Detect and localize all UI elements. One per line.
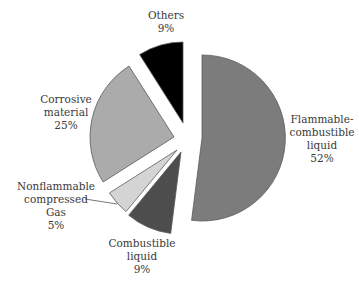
label-corrosive-line2: material (34, 106, 98, 119)
label-combustible-pct: 9% (102, 263, 182, 276)
label-nonflammable-line2: compressed (14, 193, 98, 206)
label-nonflammable-pct: 5% (14, 219, 98, 232)
label-others: Others 9% (136, 9, 196, 35)
label-corrosive-pct: 25% (34, 119, 98, 132)
label-others-name: Others (136, 9, 196, 22)
label-others-pct: 9% (136, 22, 196, 35)
label-nonflammable: Nonflammable compressed Gas 5% (14, 180, 98, 232)
label-flammable-line3: liquid (284, 139, 359, 152)
label-flammable-line2: combustible (284, 126, 359, 139)
label-combustible-line1: Combustible (102, 237, 182, 250)
label-flammable-pct: 52% (284, 152, 359, 165)
label-combustible-line2: liquid (102, 250, 182, 263)
label-nonflammable-line1: Nonflammable (14, 180, 98, 193)
label-flammable-line1: Flammable- (284, 113, 359, 126)
pie-slice-flammable (192, 55, 286, 221)
label-corrosive-line1: Corrosive (34, 93, 98, 106)
label-corrosive: Corrosive material 25% (34, 93, 98, 132)
pie-slices (90, 42, 285, 233)
label-combustible: Combustible liquid 9% (102, 237, 182, 276)
label-nonflammable-line3: Gas (14, 206, 98, 219)
label-flammable: Flammable- combustible liquid 52% (284, 113, 359, 165)
